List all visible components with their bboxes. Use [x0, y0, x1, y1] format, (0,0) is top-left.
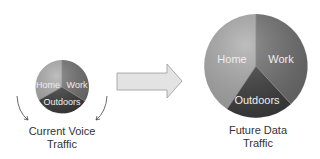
- pie-label-outdoors: Outdoors: [234, 94, 280, 106]
- pie-label-home: Home: [217, 53, 246, 65]
- caption-line-1: Current Voice: [12, 125, 112, 138]
- future-data-caption: Future Data Traffic: [208, 124, 308, 150]
- current-voice-pie: Home Work Outdoors: [35, 60, 89, 114]
- caption-line-2: Traffic: [208, 137, 308, 150]
- right-curved-arrow-icon: [96, 96, 107, 120]
- left-curved-arrow-icon: [17, 96, 28, 120]
- future-data-pie: Home Work Outdoors: [204, 14, 308, 118]
- pie-label-home: Home: [36, 80, 60, 90]
- caption-line-1: Future Data: [208, 124, 308, 137]
- current-voice-caption: Current Voice Traffic: [12, 125, 112, 151]
- caption-line-2: Traffic: [12, 138, 112, 151]
- pie-label-work: Work: [268, 53, 294, 65]
- pie-label-work: Work: [67, 80, 88, 90]
- pie-label-outdoors: Outdoors: [43, 97, 81, 107]
- right-arrow-icon: [117, 64, 182, 98]
